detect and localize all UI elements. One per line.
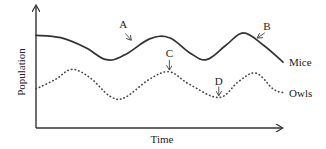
annotation-label-a: A <box>119 18 127 30</box>
annotation-arrow-a <box>125 33 131 40</box>
series-line-mice <box>36 33 283 62</box>
annotation-label-c: C <box>166 47 173 59</box>
series-label-mice: Mice <box>289 56 312 68</box>
annotation-label-d: D <box>215 75 223 87</box>
y-axis-label: Population <box>15 48 27 96</box>
annotation-arrow-b <box>257 33 265 38</box>
x-axis-label: Time <box>151 133 174 145</box>
series-line-owls <box>36 69 283 99</box>
predator-prey-chart: Time Population Mice Owls ABCD <box>0 0 326 149</box>
series-label-owls: Owls <box>289 87 312 99</box>
annotation-label-b: B <box>263 20 270 32</box>
